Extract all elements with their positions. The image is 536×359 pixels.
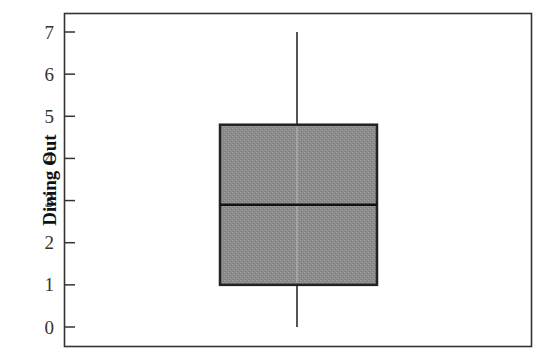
y-tick-label: 5	[45, 106, 55, 127]
y-axis-label: Dining Out	[39, 134, 61, 225]
y-tick-label: 2	[45, 232, 55, 253]
y-tick-label: 1	[45, 274, 55, 295]
y-tick-label: 7	[45, 22, 55, 43]
y-tick-label: 0	[45, 317, 55, 338]
y-tick-label: 6	[45, 64, 55, 85]
box-plot: 01234567	[0, 0, 536, 359]
